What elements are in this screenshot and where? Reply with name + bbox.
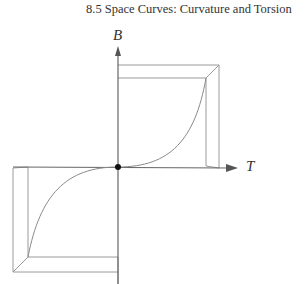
curve-upper bbox=[118, 78, 206, 167]
axes bbox=[13, 52, 232, 284]
origin-point bbox=[115, 164, 121, 170]
curve-lower bbox=[28, 167, 118, 257]
curve-diagram bbox=[0, 0, 308, 284]
upper-box bbox=[118, 65, 219, 168]
lower-box bbox=[13, 167, 118, 284]
t-axis-arrow-icon bbox=[226, 164, 238, 172]
b-axis-arrow-icon bbox=[115, 46, 121, 56]
